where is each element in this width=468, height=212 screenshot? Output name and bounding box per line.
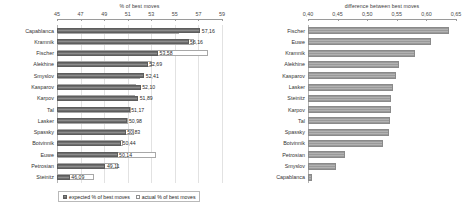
bar-expected	[57, 73, 144, 78]
bar-difference	[308, 163, 336, 170]
legend-item-actual: actual % of best moves	[136, 194, 196, 200]
chart-row: Karpov51,89	[57, 93, 222, 104]
chart-row: Petrosian49,11	[57, 160, 222, 171]
category-label: Capablanca	[25, 28, 54, 34]
category-label: Botvinnik	[283, 140, 305, 146]
axis-tick-label: 0,40	[303, 11, 314, 17]
bar-expected	[57, 39, 189, 44]
bar-difference	[308, 95, 391, 102]
category-label: Kasparov	[282, 73, 305, 79]
category-label: Spassky	[285, 129, 305, 135]
legend-item-expected: expected % of best moves	[63, 194, 130, 200]
value-label: 56,16	[190, 39, 203, 45]
category-label: Lasker	[289, 84, 305, 90]
value-label: 52,41	[146, 73, 159, 79]
category-label: Petrosian	[31, 163, 54, 169]
category-label: Capablanca	[276, 174, 305, 180]
bar-difference	[308, 117, 390, 124]
bar-expected	[57, 164, 105, 169]
bar-difference	[308, 174, 312, 181]
chart-row: Tal51,17	[57, 104, 222, 115]
bar-expected	[57, 107, 130, 112]
axis-tick-label: 53	[148, 11, 154, 17]
bar-difference	[308, 27, 449, 34]
category-label: Botvinnik	[32, 140, 54, 146]
chart-row: Smyslov	[308, 160, 456, 171]
chart-row: Capablanca57,16	[57, 25, 222, 36]
chart-row: Steinitz	[308, 93, 456, 104]
chart-row: Kasparov52,10	[57, 81, 222, 92]
left-chart-title: % of best moves	[57, 3, 222, 9]
chart-row: Kramnik	[308, 48, 456, 59]
axis-tick-label: 47	[78, 11, 84, 17]
axis-tickmark	[222, 19, 223, 21]
right-chart-x-axis: 0,400,450,500,550,600,65	[234, 11, 468, 20]
chart-row: Capablanca	[308, 172, 456, 183]
legend-swatch-expected-icon	[63, 195, 67, 199]
bar-expected	[57, 175, 70, 180]
bar-difference	[308, 72, 396, 79]
left-chart-legend: expected % of best moves actual % of bes…	[58, 191, 200, 202]
bar-expected	[57, 62, 148, 67]
bar-expected	[57, 51, 158, 56]
bar-difference	[308, 38, 431, 45]
chart-row: Lasker50,98	[57, 115, 222, 126]
bar-difference	[308, 106, 391, 113]
chart-row: Lasker	[308, 81, 456, 92]
left-chart-x-axis: 4547495153555759	[0, 11, 234, 20]
legend-label-actual: actual % of best moves	[142, 194, 196, 200]
chart-row: Euwe	[308, 36, 456, 47]
axis-tick-label: 45	[54, 11, 60, 17]
axis-tickmark	[456, 19, 457, 21]
chart-row: Steinitz46,09	[57, 172, 222, 183]
category-label: Kramnik	[34, 39, 54, 45]
category-label: Euwe	[41, 152, 55, 158]
axis-tick-label: 57	[195, 11, 201, 17]
value-label: 51,17	[131, 107, 144, 113]
axis-tick-label: 0,60	[421, 11, 432, 17]
axis-baseline	[308, 19, 456, 20]
category-label: Petrosian	[282, 152, 305, 158]
bar-expected	[57, 152, 118, 157]
bar-difference	[308, 151, 345, 158]
chart-row: Smyslov52,41	[57, 70, 222, 81]
category-label: Smyslov	[34, 73, 54, 79]
bar-difference	[308, 129, 389, 136]
chart-row: Spassky	[308, 127, 456, 138]
category-label: Tal	[47, 107, 54, 113]
chart-row: Alekhine52,69	[57, 59, 222, 70]
bar-expected	[57, 141, 121, 146]
bar-expected	[57, 28, 200, 33]
axis-baseline	[57, 19, 222, 20]
axis-tick-label: 0,55	[392, 11, 403, 17]
chart-row: Botvinnik50,44	[57, 138, 222, 149]
bar-difference	[308, 61, 399, 68]
bar-expected	[57, 96, 138, 101]
value-label: 52,69	[149, 61, 162, 67]
category-label: Fischer	[287, 28, 305, 34]
chart-row: Fischer	[308, 25, 456, 36]
value-label: 50,83	[127, 129, 140, 135]
value-label: 50,44	[123, 140, 136, 146]
axis-tick-label: 0,50	[362, 11, 373, 17]
category-label: Karpov	[37, 95, 54, 101]
chart-row: Petrosian	[308, 149, 456, 160]
category-label: Lasker	[38, 118, 54, 124]
chart-row: Spassky50,83	[57, 127, 222, 138]
chart-row: Alekhine	[308, 59, 456, 70]
category-label: Fischer	[36, 50, 54, 56]
bar-difference	[308, 140, 383, 147]
chart-row: Kramnik56,16	[57, 36, 222, 47]
value-label: 50,14	[119, 152, 132, 158]
category-label: Karpov	[288, 107, 305, 113]
category-label: Alekhine	[284, 61, 305, 67]
category-label: Kramnik	[285, 50, 305, 56]
legend-swatch-actual-icon	[136, 195, 140, 199]
axis-tick-label: 0,65	[451, 11, 462, 17]
category-label: Alekhine	[33, 61, 54, 67]
chart-row: Botvinnik	[308, 138, 456, 149]
value-label: 49,11	[107, 163, 120, 169]
bar-expected	[57, 118, 127, 123]
category-label: Euwe	[292, 39, 306, 45]
category-label: Kasparov	[31, 84, 54, 90]
